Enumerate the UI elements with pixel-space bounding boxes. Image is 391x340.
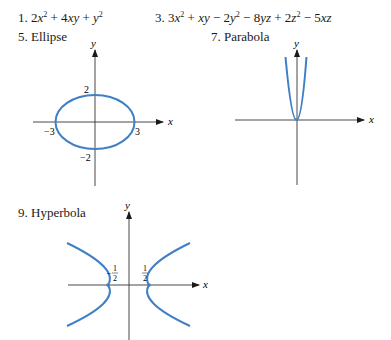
- ellipse-tick-left: −3: [44, 126, 55, 137]
- ellipse-y-label: y: [90, 37, 96, 49]
- hyperbola-tick-right-den: 2: [143, 274, 147, 283]
- hyperbola-x-label: x: [202, 278, 208, 290]
- parabola-graph: y x: [235, 37, 374, 185]
- ellipse-tick-top: 2: [84, 84, 89, 95]
- hyperbola-tick-left-num: 1: [113, 264, 117, 273]
- hyperbola-right-branch: [147, 243, 190, 326]
- hyperbola-tick-left-sign: −: [106, 268, 111, 278]
- ellipse-tick-bottom: −2: [80, 152, 91, 163]
- ellipse-x-label: x: [167, 115, 173, 127]
- hyperbola-tick-left-den: 2: [113, 274, 117, 283]
- hyperbola-y-label: y: [124, 199, 130, 211]
- graphs-canvas: y x 2 −2 −3 3 y x y x − 1 2 1 2: [0, 0, 391, 340]
- parabola-x-label: x: [368, 113, 374, 125]
- parabola-curve: [286, 57, 307, 120]
- hyperbola-vertex-right: [147, 283, 151, 287]
- ellipse-tick-right: 3: [135, 126, 140, 137]
- hyperbola-graph: y x − 1 2 1 2: [67, 199, 208, 340]
- hyperbola-tick-right-num: 1: [143, 264, 147, 273]
- hyperbola-vertex-left: [106, 283, 110, 287]
- parabola-y-label: y: [293, 37, 299, 49]
- hyperbola-left-branch: [67, 243, 110, 326]
- ellipse-graph: y x 2 −2 −3 3: [33, 37, 173, 186]
